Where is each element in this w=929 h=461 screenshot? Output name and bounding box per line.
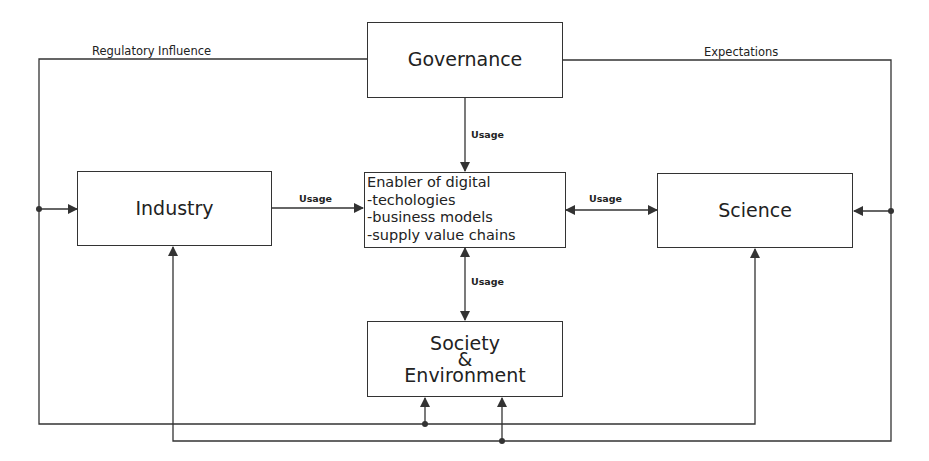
governance-node: Governance: [367, 22, 563, 98]
usage-industry-label: Usage: [299, 193, 332, 204]
expectations-label: Expectations: [704, 45, 778, 59]
usage-science-label: Usage: [589, 193, 622, 204]
junction-dot: [499, 438, 505, 444]
society-line-3: Environment: [404, 367, 525, 383]
usage-society-label: Usage: [471, 276, 504, 287]
society-environment-node: Society & Environment: [367, 321, 563, 397]
regulatory-influence-label: Regulatory Influence: [92, 44, 211, 58]
governance-label: Governance: [408, 50, 523, 70]
enabler-line-supply-value-chains: -supply value chains: [367, 227, 516, 245]
enabler-line-technologies: -techologies: [367, 192, 516, 210]
usage-governance-label: Usage: [471, 129, 504, 140]
junction-dot: [422, 421, 428, 427]
science-node: Science: [657, 173, 853, 248]
enabler-line-title: Enabler of digital: [367, 174, 516, 192]
junction-dot: [888, 208, 894, 214]
junction-dot: [36, 206, 42, 212]
enabler-node: Enabler of digital -techologies -busines…: [364, 172, 566, 248]
industry-node: Industry: [77, 171, 272, 246]
enabler-line-business-models: -business models: [367, 209, 516, 227]
industry-label: Industry: [135, 199, 213, 219]
science-label: Science: [718, 201, 792, 221]
